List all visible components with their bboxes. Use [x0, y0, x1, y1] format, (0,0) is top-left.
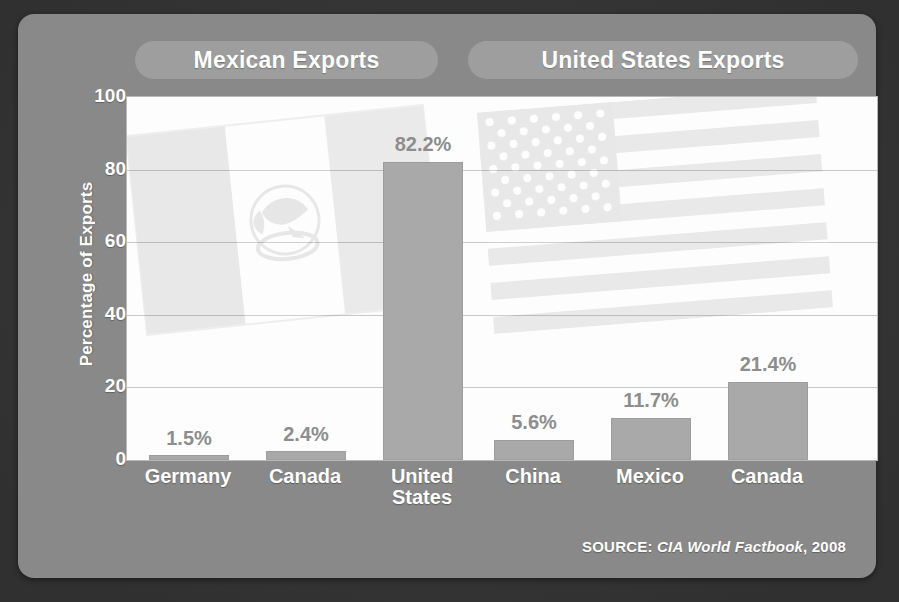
x-label-united-states-line2: States	[391, 487, 453, 508]
bar-canada-us	[728, 382, 808, 460]
x-label-canada-us-line1: Canada	[731, 466, 803, 487]
header-pill-mexican-exports: Mexican Exports	[135, 41, 438, 79]
y-tick-20: 20	[66, 375, 126, 397]
bar-value-united-states: 82.2%	[395, 133, 452, 156]
chart-panel: Mexican Exports United States Exports Pe…	[18, 14, 876, 578]
bar-value-canada-us: 21.4%	[740, 353, 797, 376]
y-tick-100: 100	[66, 85, 126, 107]
source-note: SOURCE: CIA World Factbook, 2008	[582, 538, 846, 555]
source-publication: CIA World Factbook	[657, 538, 803, 555]
bar-united-states	[383, 162, 463, 460]
y-tick-60: 60	[66, 230, 126, 252]
bar-value-germany: 1.5%	[166, 427, 212, 450]
gridline-60	[127, 242, 877, 243]
header-pill-united-states-exports-label: United States Exports	[541, 47, 784, 74]
bar-canada-mx	[266, 451, 346, 460]
x-label-mexico: Mexico	[616, 466, 684, 487]
x-label-germany: Germany	[145, 466, 232, 487]
bar-china	[494, 440, 574, 460]
usa-flag-watermark	[471, 96, 839, 334]
x-label-germany-line1: Germany	[145, 466, 232, 487]
y-tick-80: 80	[66, 158, 126, 180]
x-label-canada-us: Canada	[731, 466, 803, 487]
y-tick-40: 40	[66, 303, 126, 325]
bar-value-mexico: 11.7%	[623, 389, 679, 412]
plot-area: 1.5% 2.4% 82.2% 5.6% 11.7% 21.4%	[126, 96, 878, 461]
gridline-80	[127, 170, 877, 171]
source-year: , 2008	[803, 538, 846, 555]
x-label-china: China	[505, 466, 561, 487]
source-prefix: SOURCE:	[582, 538, 653, 555]
bar-mexico	[611, 418, 691, 461]
bar-value-canada-mx: 2.4%	[283, 423, 329, 446]
screenshot-root: Mexican Exports United States Exports Pe…	[0, 0, 899, 602]
x-label-mexico-line1: Mexico	[616, 466, 684, 487]
y-axis: Percentage of Exports 100 80 60 40 20 0	[50, 14, 126, 578]
x-label-canada-mx: Canada	[269, 466, 341, 487]
y-tick-0: 0	[66, 448, 126, 470]
x-label-united-states: United States	[391, 466, 453, 508]
header-pill-mexican-exports-label: Mexican Exports	[194, 47, 380, 74]
header-pill-united-states-exports: United States Exports	[468, 41, 858, 79]
x-label-canada-mx-line1: Canada	[269, 466, 341, 487]
gridline-40	[127, 315, 877, 316]
x-label-united-states-line1: United	[391, 466, 453, 487]
x-label-china-line1: China	[505, 466, 561, 487]
bar-value-china: 5.6%	[511, 411, 557, 434]
bar-germany	[149, 455, 229, 460]
